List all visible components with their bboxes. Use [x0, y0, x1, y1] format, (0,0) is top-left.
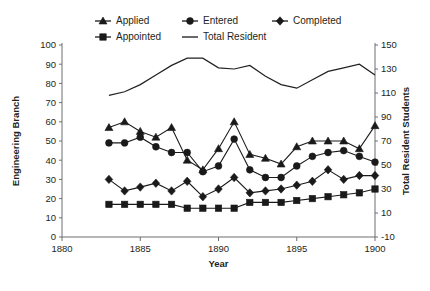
data-point-applied	[246, 150, 254, 157]
data-point-entered	[262, 174, 269, 181]
data-point-completed	[277, 185, 285, 193]
data-point-completed	[168, 187, 176, 195]
data-point-appointed	[231, 205, 237, 211]
legend-label-applied: Applied	[116, 15, 149, 26]
x-axis-title: Year	[208, 258, 228, 269]
y-tick-label-right: 150	[381, 39, 397, 50]
y-tick-label-left: 100	[40, 39, 56, 50]
data-point-completed	[356, 171, 364, 179]
data-point-entered	[278, 174, 285, 181]
data-point-appointed	[262, 199, 268, 205]
x-tick-label: 1900	[364, 243, 385, 254]
data-point-applied	[121, 118, 129, 125]
chart-container: AppliedEnteredCompletedAppointedTotal Re…	[0, 0, 430, 291]
series-line-applied	[109, 122, 375, 170]
data-point-entered	[231, 136, 238, 143]
x-tick-label: 1895	[286, 243, 307, 254]
data-point-completed	[152, 179, 160, 187]
legend-item-appointed[interactable]	[95, 34, 111, 40]
data-point-appointed	[294, 197, 300, 203]
series-line-total-resident	[109, 58, 375, 95]
y-tick-label-left: 70	[45, 97, 56, 108]
y-tick-label-right: 110	[381, 87, 396, 98]
data-point-completed	[262, 187, 270, 195]
data-point-entered	[309, 153, 316, 160]
legend-marker-circle-icon	[187, 18, 194, 25]
y-tick-label-left: 50	[45, 135, 56, 146]
data-point-appointed	[309, 195, 315, 201]
legend-item-completed[interactable]	[272, 17, 288, 25]
y-tick-label-right: 30	[381, 183, 392, 194]
data-point-completed	[136, 183, 144, 191]
data-point-appointed	[356, 190, 362, 196]
data-point-applied	[371, 122, 379, 129]
data-point-entered	[168, 149, 175, 156]
data-point-entered	[293, 163, 300, 170]
data-point-entered	[199, 168, 206, 175]
legend-label-total-resident: Total Resident	[203, 31, 267, 42]
data-point-completed	[215, 185, 223, 193]
data-point-applied	[215, 145, 223, 152]
data-point-entered	[215, 163, 222, 170]
legend-item-applied[interactable]	[95, 17, 111, 24]
y-tick-label-right: 50	[381, 159, 392, 170]
series-line-completed	[109, 170, 375, 197]
data-point-completed	[105, 175, 113, 183]
data-point-appointed	[106, 201, 112, 207]
data-point-appointed	[325, 193, 331, 199]
data-point-entered	[325, 149, 332, 156]
data-point-completed	[309, 177, 317, 185]
y-tick-label-right: 70	[381, 135, 392, 146]
data-point-completed	[121, 187, 129, 195]
series-line-appointed	[109, 189, 375, 208]
x-tick-label: 1880	[51, 243, 72, 254]
data-point-entered	[372, 159, 379, 166]
x-tick-label: 1890	[208, 243, 229, 254]
data-point-appointed	[137, 201, 143, 207]
data-point-entered	[137, 134, 144, 141]
x-tick-label: 1885	[130, 243, 151, 254]
data-point-appointed	[341, 192, 347, 198]
data-point-applied	[168, 124, 176, 131]
y-tick-label-right: 90	[381, 111, 392, 122]
data-point-appointed	[153, 201, 159, 207]
legend-marker-square-icon	[100, 34, 106, 40]
y-tick-label-left: 90	[45, 59, 56, 70]
data-point-appointed	[184, 205, 190, 211]
data-point-appointed	[372, 186, 378, 192]
y-tick-label-left: 80	[45, 78, 56, 89]
data-point-entered	[106, 140, 113, 147]
data-point-entered	[121, 140, 128, 147]
legend-item-entered[interactable]	[182, 18, 198, 25]
data-point-appointed	[215, 205, 221, 211]
data-point-entered	[246, 166, 253, 173]
y-tick-label-right: 10	[381, 207, 392, 218]
data-point-applied	[136, 127, 144, 134]
y-tick-label-left: 0	[51, 231, 56, 242]
y-tick-label-right: -10	[381, 231, 395, 242]
y-tick-label-left: 30	[45, 174, 56, 185]
y-tick-label-left: 60	[45, 116, 56, 127]
data-point-appointed	[247, 199, 253, 205]
data-point-completed	[340, 175, 348, 183]
legend-marker-diamond-icon	[276, 17, 284, 25]
data-point-applied	[230, 118, 238, 125]
data-point-completed	[371, 171, 379, 179]
data-point-completed	[293, 181, 301, 189]
y-tick-label-right: 130	[381, 63, 397, 74]
y-tick-label-left: 10	[45, 212, 56, 223]
data-point-entered	[340, 147, 347, 154]
legend-label-appointed: Appointed	[116, 31, 161, 42]
data-point-completed	[324, 166, 332, 174]
data-point-appointed	[278, 199, 284, 205]
legend-label-entered: Entered	[203, 15, 238, 26]
legend-label-completed: Completed	[293, 15, 341, 26]
y-axis-title-right: Total Resident Students	[400, 87, 411, 195]
data-point-entered	[356, 153, 363, 160]
y-tick-label-left: 40	[45, 155, 56, 166]
data-point-applied	[183, 156, 191, 163]
y-axis-title-left: Engineering Branch	[10, 96, 21, 186]
data-point-appointed	[121, 201, 127, 207]
chart-canvas: AppliedEnteredCompletedAppointedTotal Re…	[0, 0, 430, 291]
data-point-entered	[184, 149, 191, 156]
